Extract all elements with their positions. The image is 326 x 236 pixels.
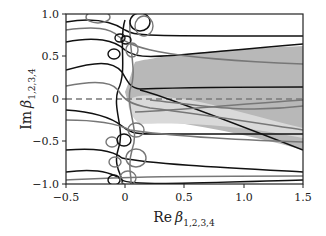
svg-text:0: 0 — [122, 191, 129, 204]
svg-text:0: 0 — [52, 93, 59, 106]
svg-text:1.0: 1.0 — [235, 191, 253, 204]
svg-text:0.5: 0.5 — [42, 50, 60, 63]
svg-text:1.5: 1.5 — [294, 191, 312, 204]
plot-area — [66, 11, 303, 186]
svg-text:−0.5: −0.5 — [53, 191, 80, 204]
x-ticks — [66, 184, 303, 188]
root-locus-chart: −0.5 0 0.5 1.0 1.5 1.0 0.5 0 −0.5 −1.0 R… — [0, 0, 326, 236]
svg-text:0.5: 0.5 — [175, 191, 193, 204]
svg-text:−1.0: −1.0 — [32, 178, 59, 191]
svg-text:−0.5: −0.5 — [32, 135, 59, 148]
y-axis-label: Imβ1,2,3,4 — [18, 68, 37, 130]
x-axis-label: Reβ1,2,3,4 — [153, 209, 215, 228]
x-tick-labels: −0.5 0 0.5 1.0 1.5 — [53, 191, 312, 204]
svg-text:1.0: 1.0 — [42, 8, 60, 21]
